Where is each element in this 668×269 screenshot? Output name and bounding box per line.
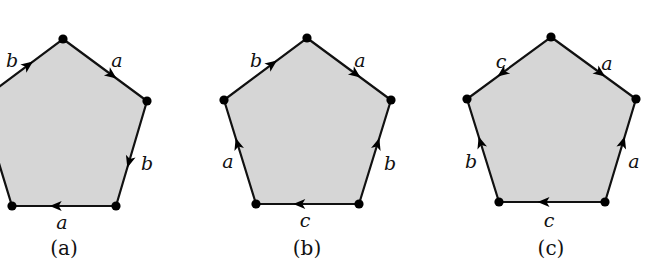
vertex-dot <box>546 32 555 41</box>
pentagon-figure: abab(a)abcab(b)aacbc(c) <box>0 0 668 269</box>
vertex-dot <box>142 96 151 105</box>
vertex-dot <box>386 95 395 104</box>
pentagon-face <box>0 39 147 206</box>
edge-label: a <box>354 49 365 71</box>
vertex-dot <box>354 199 363 208</box>
panel-caption: (a) <box>50 236 78 260</box>
panel-a: abab(a) <box>0 34 153 260</box>
edge-label: b <box>141 152 153 174</box>
vertex-dot <box>251 199 260 208</box>
edge-label: a <box>601 52 612 74</box>
edge-label: b <box>250 49 262 71</box>
edge-label: c <box>300 209 311 231</box>
panels-group: abab(a)abcab(b)aacbc(c) <box>0 32 641 260</box>
vertex-dot <box>111 201 120 210</box>
edge-label: c <box>496 50 507 72</box>
vertex-dot <box>494 197 503 206</box>
edge-label: b <box>465 150 477 172</box>
edge-label: a <box>628 150 639 172</box>
edge-label: b <box>6 49 18 71</box>
vertex-dot <box>219 95 228 104</box>
vertex-dot <box>600 197 609 206</box>
edge-label: b <box>384 152 396 174</box>
edge-label: a <box>111 49 122 71</box>
panel-b: abcab(b) <box>219 33 396 260</box>
vertex-dot <box>302 33 311 42</box>
edge-label: a <box>56 211 67 233</box>
vertex-dot <box>7 201 16 210</box>
panel-caption: (b) <box>293 236 321 260</box>
edge-label: c <box>544 209 555 231</box>
vertex-dot <box>631 94 640 103</box>
panel-caption: (c) <box>538 236 565 260</box>
panel-c: aacbc(c) <box>462 32 640 260</box>
vertex-dot <box>58 34 67 43</box>
vertex-dot <box>462 94 471 103</box>
edge-label: a <box>222 150 233 172</box>
